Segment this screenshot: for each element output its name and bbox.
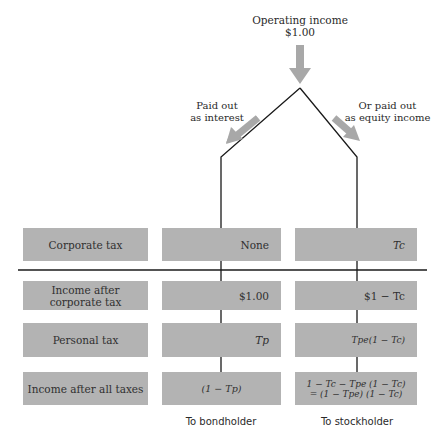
bondholder-label: To bondholder xyxy=(166,416,276,428)
operating-income-label: Operating income xyxy=(250,14,350,26)
cell-value: $1 − Tc xyxy=(364,290,405,302)
cell-value: Tpe(1 − Tc) xyxy=(352,335,405,345)
row-label-income-after-all-taxes: Income after all taxes xyxy=(23,372,148,405)
row-label-text: Corporate tax xyxy=(49,239,123,251)
stock-personal-tax-cell: Tpe(1 − Tc) xyxy=(295,323,417,357)
cell-value: None xyxy=(241,239,270,251)
bond-income-after-corporate-tax-cell: $1.00 xyxy=(162,281,281,310)
stock-corporate-tax-cell: Tc xyxy=(295,228,417,261)
row-label-income-after-corporate-tax: Income after corporate tax xyxy=(23,281,148,310)
stock-income-after-corporate-tax-cell: $1 − Tc xyxy=(295,281,417,310)
bond-personal-tax-cell: Tp xyxy=(162,323,281,357)
row-label-text: Personal tax xyxy=(53,334,119,346)
stock-income-after-all-taxes-cell: 1 − Tc − Tpe (1 − Tc) = (1 − Tpe) (1 − T… xyxy=(295,372,417,405)
down-arrow-icon xyxy=(289,45,311,84)
stockholder-label: To stockholder xyxy=(302,416,412,428)
row-label-text: Income after all taxes xyxy=(28,383,144,395)
row-label-line2: corporate tax xyxy=(50,296,122,308)
equity-label-line1: Or paid out xyxy=(340,100,435,112)
equity-label-line2: as equity income xyxy=(340,112,435,124)
formula-line1: 1 − Tc − Tpe (1 − Tc) xyxy=(307,379,406,389)
operating-income-title: Operating income $1.00 xyxy=(250,14,350,38)
stock-final-formula: 1 − Tc − Tpe (1 − Tc) = (1 − Tpe) (1 − T… xyxy=(307,379,406,399)
operating-income-value: $1.00 xyxy=(250,26,350,38)
cell-value: $1.00 xyxy=(239,290,269,302)
formula-line2: = (1 − Tpe) (1 − Tc) xyxy=(307,389,406,399)
equity-branch-label: Or paid out as equity income xyxy=(340,100,435,124)
bond-corporate-tax-cell: None xyxy=(162,228,281,261)
cell-value: (1 − Tp) xyxy=(202,383,242,394)
cell-value: Tp xyxy=(255,334,269,346)
interest-label-line2: as interest xyxy=(182,112,252,124)
interest-branch-label: Paid out as interest xyxy=(182,100,252,124)
cell-value: Tc xyxy=(393,239,405,251)
row-label-personal-tax: Personal tax xyxy=(23,323,148,357)
row-label-line1: Income after xyxy=(50,284,122,296)
row-label-corporate-tax: Corporate tax xyxy=(23,228,148,261)
interest-label-line1: Paid out xyxy=(182,100,252,112)
bond-income-after-all-taxes-cell: (1 − Tp) xyxy=(162,372,281,405)
